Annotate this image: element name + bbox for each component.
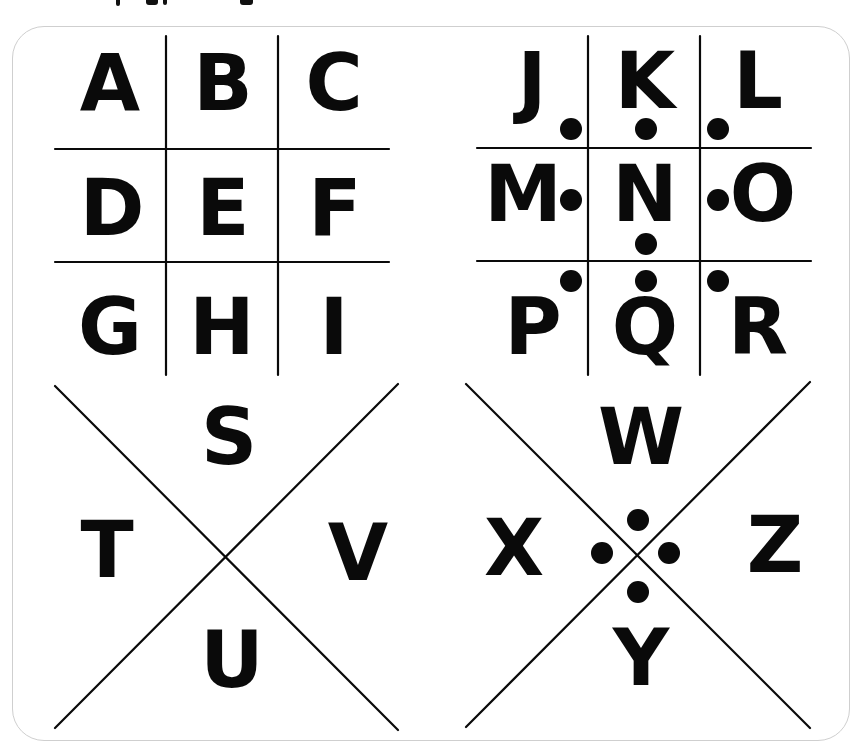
dot-marker-w bbox=[627, 509, 649, 531]
dot-marker-j bbox=[560, 118, 582, 140]
cipher-letter-z: Z bbox=[725, 495, 825, 595]
cipher-letter-t: T bbox=[57, 500, 157, 600]
dot-marker-r bbox=[707, 270, 729, 292]
title-descender-fragment bbox=[240, 0, 253, 5]
cipher-letter-d: D bbox=[62, 158, 162, 258]
cipher-letter-y: Y bbox=[591, 608, 691, 708]
dot-marker-x bbox=[591, 542, 613, 564]
title-descender-fragment bbox=[146, 0, 158, 5]
cipher-letter-c: C bbox=[284, 33, 384, 133]
dot-marker-k bbox=[635, 118, 657, 140]
cipher-letter-e: E bbox=[173, 158, 273, 258]
dot-marker-z bbox=[658, 542, 680, 564]
cipher-letter-u: U bbox=[182, 610, 282, 710]
cipher-letter-i: I bbox=[284, 277, 384, 377]
cipher-letter-n: N bbox=[595, 144, 695, 244]
cipher-letter-h: H bbox=[172, 277, 272, 377]
cipher-letter-g: G bbox=[60, 277, 160, 377]
cipher-letter-a: A bbox=[60, 33, 160, 133]
cipher-letter-q: Q bbox=[595, 277, 695, 377]
title-descender-fragment bbox=[163, 0, 167, 5]
dot-marker-l bbox=[707, 118, 729, 140]
dot-marker-p bbox=[560, 270, 582, 292]
title-descender-fragment bbox=[116, 0, 120, 6]
cipher-letter-s: S bbox=[179, 387, 279, 487]
cipher-letter-j: J bbox=[482, 31, 582, 131]
cipher-letter-v: V bbox=[308, 503, 408, 603]
cipher-letter-w: W bbox=[591, 387, 691, 487]
cipher-letter-o: O bbox=[713, 144, 813, 244]
dot-marker-n bbox=[635, 233, 657, 255]
dot-marker-y bbox=[627, 581, 649, 603]
cipher-letter-b: B bbox=[173, 33, 273, 133]
cipher-letter-m: M bbox=[473, 144, 573, 244]
cipher-letter-p: P bbox=[483, 277, 583, 377]
cipher-letter-x: X bbox=[464, 498, 564, 598]
cipher-letter-l: L bbox=[708, 31, 808, 131]
cipher-letter-k: K bbox=[595, 31, 695, 131]
clipped-title-fragments bbox=[0, 0, 857, 10]
cipher-letter-f: F bbox=[285, 158, 385, 258]
dot-marker-m bbox=[560, 189, 582, 211]
dot-marker-q bbox=[635, 270, 657, 292]
cipher-letter-r: R bbox=[708, 277, 808, 377]
dot-marker-o bbox=[707, 189, 729, 211]
